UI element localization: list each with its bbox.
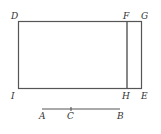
label-g: G [141,11,148,21]
label-h: H [121,91,130,101]
label-a: A [38,111,46,121]
label-e: E [140,91,148,101]
label-d: D [10,11,18,21]
label-i: I [10,91,15,101]
label-f: F [122,11,130,21]
label-c: C [67,111,74,121]
rectangle-dgei [19,22,142,89]
label-b: B [116,111,124,121]
geometry-diagram: D F G I H E A C B [0,0,161,134]
